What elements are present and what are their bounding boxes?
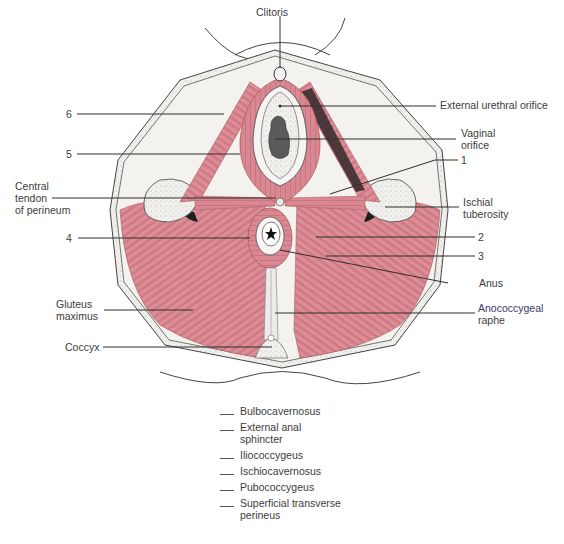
muscle-key-list: Bulbocavernosus External anal sphincter … [220, 405, 420, 525]
answer-blank [220, 449, 234, 459]
answer-blank [220, 497, 234, 507]
label-number-5: 5 [66, 148, 72, 160]
key-item: Ischiocavernosus [220, 465, 420, 477]
label-central-tendon-line1: Central [15, 180, 49, 192]
label-vaginal-orifice-line2: orifice [461, 139, 489, 151]
key-item: External anal sphincter [220, 421, 420, 445]
key-item-text: Bulbocavernosus [240, 405, 360, 417]
central-tendon [276, 198, 284, 206]
label-gluteus-line2: maximus [56, 310, 98, 322]
label-anococcygeal-line2: raphe [478, 314, 505, 326]
key-item-text: Iliococcygeus [240, 449, 360, 461]
label-vaginal-orifice-line1: Vaginal [461, 127, 495, 139]
label-anococcygeal-line1: Anococcygeal [478, 302, 543, 314]
key-item: Bulbocavernosus [220, 405, 420, 417]
external-anal-sphincter [248, 208, 292, 268]
answer-blank [220, 465, 234, 475]
anococcygeal-raphe [264, 268, 278, 340]
key-item-text: Pubococcygeus [240, 481, 360, 493]
label-external-urethral-orifice: External urethral orifice [440, 99, 548, 111]
key-item: Pubococcygeus [220, 481, 420, 493]
label-number-1: 1 [461, 154, 467, 166]
label-anus: Anus [479, 277, 503, 289]
label-number-2: 2 [478, 231, 484, 243]
label-number-3: 3 [478, 250, 484, 262]
label-central-tendon-line3: of perineum [15, 204, 70, 216]
label-ischial-line2: tuberosity [463, 208, 509, 220]
clitoris [274, 67, 286, 81]
key-item-text: External anal sphincter [240, 421, 320, 445]
key-item: Superficial transverse perineus [220, 497, 420, 521]
label-ischial-line1: Ischial [463, 196, 493, 208]
label-gluteus-line1: Gluteus [56, 298, 92, 310]
label-number-4: 4 [66, 232, 72, 244]
label-clitoris: Clitoris [256, 6, 288, 18]
answer-blank [220, 405, 234, 415]
label-coccyx: Coccyx [65, 341, 99, 353]
answer-blank [220, 481, 234, 491]
label-central-tendon-line2: tendon [15, 192, 47, 204]
key-item-text: Ischiocavernosus [240, 465, 360, 477]
key-item-text: Superficial transverse perineus [240, 497, 350, 521]
key-item: Iliococcygeus [220, 449, 420, 461]
label-number-6: 6 [66, 108, 72, 120]
answer-blank [220, 421, 234, 431]
